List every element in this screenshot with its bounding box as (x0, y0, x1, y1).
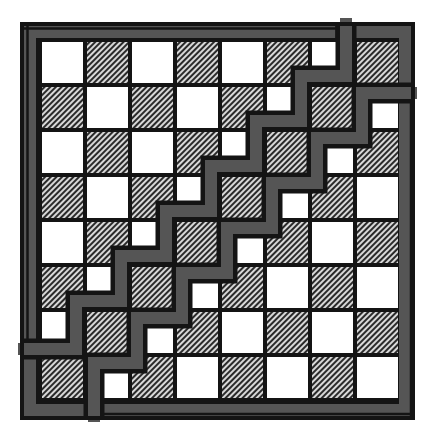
light-square (177, 87, 218, 128)
light-square (357, 357, 398, 398)
hatched-square (357, 312, 398, 353)
hatched-square (132, 267, 173, 308)
light-square (42, 132, 83, 173)
checkerboard-diagram (0, 0, 434, 441)
light-square (87, 87, 128, 128)
hatched-square (177, 42, 218, 83)
hatched-square (312, 357, 353, 398)
hatched-square (87, 42, 128, 83)
light-square (132, 42, 173, 83)
light-square (357, 267, 398, 308)
hatched-square (312, 267, 353, 308)
hatched-square (357, 222, 398, 263)
hatched-square (87, 312, 128, 353)
light-square (267, 357, 308, 398)
light-square (357, 177, 398, 218)
hatched-square (177, 222, 218, 263)
light-square (312, 222, 353, 263)
hatched-square (222, 357, 263, 398)
hatched-square (267, 312, 308, 353)
hatched-square (267, 132, 308, 173)
light-square (222, 312, 263, 353)
hatched-square (42, 87, 83, 128)
hatched-square (132, 87, 173, 128)
light-square (42, 42, 83, 83)
light-square (177, 357, 218, 398)
light-square (312, 312, 353, 353)
light-square (87, 177, 128, 218)
hatched-square (42, 357, 83, 398)
light-square (132, 132, 173, 173)
hatched-square (312, 87, 353, 128)
light-square (42, 222, 83, 263)
hatched-square (357, 42, 398, 83)
hatched-square (42, 177, 83, 218)
hatched-square (222, 177, 263, 218)
light-square (222, 42, 263, 83)
hatched-square (87, 132, 128, 173)
light-square (267, 267, 308, 308)
